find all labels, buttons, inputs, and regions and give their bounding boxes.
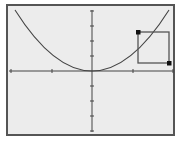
zoom-box-corner-top-left-marker[interactable]: [136, 30, 141, 35]
zoom-box-corner-bottom-right-marker[interactable]: [167, 61, 172, 66]
graph-canvas[interactable]: [0, 0, 180, 144]
zoom-box[interactable]: [138, 32, 169, 63]
